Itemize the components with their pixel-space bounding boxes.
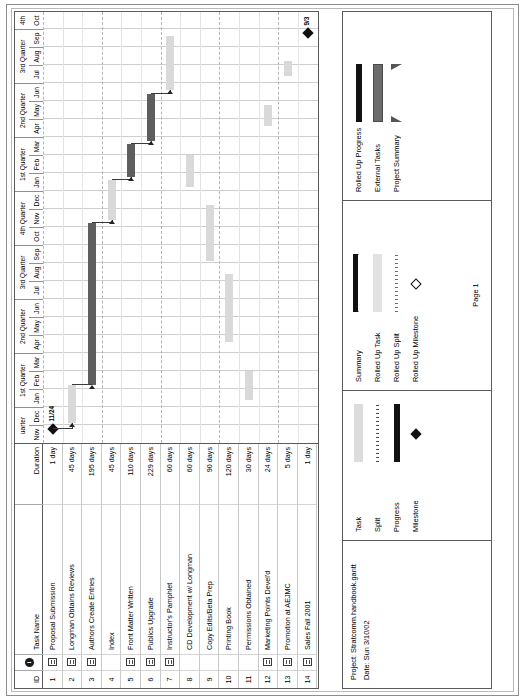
cell-note-icon[interactable] bbox=[161, 654, 180, 670]
legend-item: Rolled Up Milestone bbox=[406, 201, 425, 390]
table-row[interactable]: 2Longman Obtains Reviews45 days bbox=[63, 444, 83, 688]
cell-note-icon[interactable] bbox=[298, 654, 317, 670]
project-summary-swatch bbox=[391, 64, 402, 122]
gantt-bar[interactable] bbox=[108, 180, 116, 220]
milestone-diamond-swatch bbox=[410, 428, 421, 439]
table-row[interactable]: 11Permissions Obtained30 days bbox=[239, 444, 259, 688]
note-icon bbox=[126, 659, 135, 667]
cell-task-name: Printing Book bbox=[219, 504, 238, 654]
note-icon bbox=[303, 659, 312, 667]
timescale-month-cell: Jan bbox=[29, 389, 43, 407]
cell-note-icon[interactable] bbox=[278, 654, 297, 670]
grid-hline bbox=[141, 12, 142, 443]
gantt-bar[interactable] bbox=[225, 274, 233, 342]
cell-note-icon[interactable] bbox=[259, 654, 278, 670]
legend-item-swatch bbox=[410, 254, 422, 312]
gantt-bar[interactable] bbox=[245, 371, 253, 400]
gantt-bar[interactable] bbox=[88, 223, 96, 385]
legend-column-3: Rolled Up ProgressExternal TasksProject … bbox=[343, 10, 491, 200]
timescale-month-cell: May bbox=[29, 317, 43, 335]
timescale-quarter-cell: uarter bbox=[15, 407, 29, 443]
timescale-month-cell: Sep bbox=[29, 29, 43, 47]
cell-note-icon[interactable] bbox=[121, 654, 140, 670]
grid-hline bbox=[161, 12, 162, 443]
timescale-quarter-cell: 2nd Quarter bbox=[15, 83, 29, 137]
gantt-bar[interactable] bbox=[186, 155, 194, 187]
table-row[interactable]: 1Proposal Submission1 day bbox=[43, 444, 63, 688]
cell-note-icon[interactable] bbox=[63, 654, 82, 670]
column-header-info[interactable]: i bbox=[15, 654, 43, 670]
note-icon bbox=[87, 659, 96, 667]
dependency-arrow-icon bbox=[128, 177, 134, 181]
gantt-chart: ID i Task Name Duration 1Proposal Submis… bbox=[14, 11, 319, 689]
cell-note-icon[interactable] bbox=[219, 654, 238, 670]
timescale-month-cell: Jun bbox=[29, 83, 43, 101]
rolled-up-milestone-swatch bbox=[410, 278, 421, 289]
table-row[interactable]: 9Copy Edits/Beta Prep90 days bbox=[200, 444, 220, 688]
gantt-bar[interactable] bbox=[166, 36, 174, 90]
gantt-bar[interactable] bbox=[127, 144, 135, 176]
cell-note-icon[interactable] bbox=[180, 654, 199, 670]
cell-duration: 1 day bbox=[298, 443, 317, 504]
cell-task-name: Copy Edits/Beta Prep bbox=[200, 504, 219, 654]
cell-id: 5 bbox=[121, 670, 140, 688]
dependency-arrow-icon bbox=[89, 385, 95, 389]
timescale-month-cell: May bbox=[29, 101, 43, 119]
legend-item: Task bbox=[349, 391, 368, 540]
gantt-bar[interactable] bbox=[206, 205, 214, 261]
dependency-arrow-icon bbox=[109, 220, 115, 224]
rotated-landscape-content: ID i Task Name Duration 1Proposal Submis… bbox=[12, 9, 513, 691]
column-header-duration[interactable]: Duration bbox=[15, 443, 43, 504]
table-row[interactable]: 14Sales Fall 20011 day bbox=[298, 444, 318, 688]
legend-item-label: Rolled Up Split bbox=[392, 312, 401, 390]
cell-note-icon[interactable] bbox=[82, 654, 101, 670]
cell-duration: 24 days bbox=[259, 443, 278, 504]
table-row[interactable]: 6Publics Upgrade229 days bbox=[141, 444, 161, 688]
table-row[interactable]: 8CD Development w/ Longman60 days bbox=[180, 444, 200, 688]
cell-id: 11 bbox=[239, 670, 258, 688]
cell-note-icon[interactable] bbox=[200, 654, 219, 670]
legend-item-swatch bbox=[372, 64, 384, 122]
legend-item-label: Split bbox=[373, 462, 382, 540]
milestone-label: 9/3 bbox=[303, 17, 310, 26]
column-header-id[interactable]: ID bbox=[15, 670, 43, 688]
table-row[interactable]: 7Instructor's Pamphlet60 days bbox=[161, 444, 181, 688]
legend-item: External Tasks bbox=[368, 10, 387, 200]
gantt-bar[interactable] bbox=[264, 105, 272, 127]
timescale-month-cell: Jul bbox=[29, 65, 43, 83]
legend-column-2: SummaryRolled Up TaskRolled Up SplitRoll… bbox=[343, 200, 491, 390]
table-row[interactable]: 13Promotion at AEJMC5 days bbox=[278, 444, 298, 688]
cell-note-icon[interactable] bbox=[141, 654, 160, 670]
legend-item-swatch bbox=[391, 404, 403, 462]
column-header-task-name[interactable]: Task Name bbox=[15, 504, 43, 654]
legend-item-swatch bbox=[353, 64, 365, 122]
rolled-up-progress-swatch bbox=[356, 64, 362, 122]
cell-duration: 60 days bbox=[161, 443, 180, 504]
gantt-bar[interactable] bbox=[284, 61, 292, 75]
legend-column-1: TaskSplitProgressMilestone bbox=[343, 390, 491, 540]
project-date-line: Date: Sun 3/10/02 bbox=[362, 541, 371, 688]
table-row[interactable]: 5Front Matter Written110 days bbox=[121, 444, 141, 688]
grid-hline bbox=[43, 12, 44, 443]
table-row[interactable]: 12Marketing Points Devel'd24 days bbox=[259, 444, 279, 688]
grid-hline bbox=[82, 12, 83, 443]
table-row[interactable]: 10Printing Book120 days bbox=[219, 444, 239, 688]
table-row[interactable]: 3Authors Create Entries195 days bbox=[82, 444, 102, 688]
dependency-arrow-icon bbox=[167, 90, 173, 94]
legend-item-label: Rolled Up Milestone bbox=[411, 312, 420, 390]
timescale-month-cell: Apr bbox=[29, 335, 43, 353]
cell-note-icon[interactable] bbox=[43, 654, 62, 670]
grid-hline bbox=[239, 12, 240, 443]
cell-note-icon[interactable] bbox=[239, 654, 258, 670]
grid-hline bbox=[278, 12, 279, 443]
table-row[interactable]: 4Index45 days bbox=[102, 444, 122, 688]
cell-id: 8 bbox=[180, 670, 199, 688]
gantt-bar[interactable] bbox=[147, 94, 155, 141]
note-icon bbox=[263, 659, 272, 667]
cell-task-name: Promotion at AEJMC bbox=[278, 504, 297, 654]
gantt-bar[interactable] bbox=[68, 385, 76, 423]
cell-duration: 195 days bbox=[82, 443, 101, 504]
timescale-month-cell: Aug bbox=[29, 263, 43, 281]
legend-item-label: Rolled Up Task bbox=[373, 312, 382, 390]
cell-note-icon[interactable] bbox=[102, 654, 121, 670]
